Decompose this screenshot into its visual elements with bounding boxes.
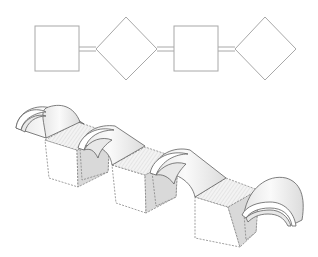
vault-4: [242, 177, 303, 240]
diagram-canvas: [0, 0, 318, 257]
isometric-view: [0, 0, 318, 257]
